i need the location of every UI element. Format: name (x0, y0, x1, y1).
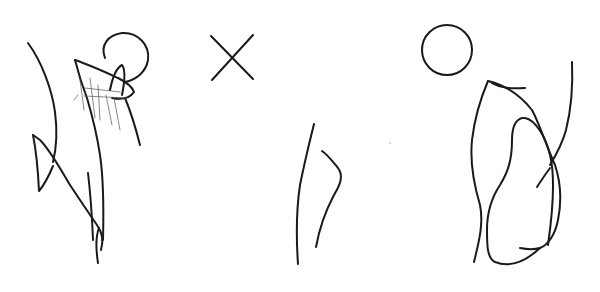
sketch-canvas (0, 0, 600, 292)
figure-sketch (28, 33, 148, 263)
cross-and-lines (211, 35, 341, 264)
circle-and-loop (422, 25, 572, 264)
speck (389, 142, 391, 144)
